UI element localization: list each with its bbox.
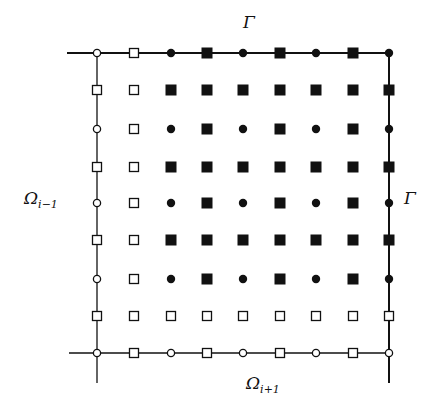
- filled-square-icon: [202, 85, 213, 96]
- open-circle-icon: [93, 199, 100, 206]
- filled-square-icon: [166, 162, 177, 173]
- open-circle-icon: [93, 349, 100, 356]
- open-square-icon: [276, 349, 285, 358]
- open-circle-icon: [239, 349, 246, 356]
- filled-circle-icon: [385, 275, 393, 283]
- filled-square-icon: [238, 85, 249, 96]
- filled-square-icon: [275, 124, 286, 135]
- filled-square-icon: [348, 48, 359, 59]
- filled-square-icon: [348, 85, 359, 96]
- gamma-top-text: Γ: [243, 12, 255, 32]
- open-square-icon: [203, 312, 212, 321]
- filled-square-icon: [202, 235, 213, 246]
- filled-circle-icon: [239, 275, 247, 283]
- filled-circle-icon: [167, 49, 175, 57]
- open-square-icon: [93, 86, 102, 95]
- open-square-icon: [312, 312, 321, 321]
- filled-square-icon: [348, 235, 359, 246]
- open-square-icon: [93, 163, 102, 172]
- open-square-icon: [130, 349, 139, 358]
- grid-diagram: [0, 0, 441, 411]
- filled-square-icon: [384, 162, 395, 173]
- open-circle-icon: [312, 349, 319, 356]
- omega-bottom-label: Ωi+1: [246, 375, 280, 395]
- open-square-icon: [276, 312, 285, 321]
- open-circle-icon: [385, 349, 392, 356]
- filled-circle-icon: [239, 199, 247, 207]
- filled-square-icon: [348, 198, 359, 209]
- filled-circle-icon: [312, 49, 320, 57]
- open-circle-icon: [93, 49, 100, 56]
- gamma-right-text: Γ: [404, 188, 416, 208]
- filled-square-icon: [166, 85, 177, 96]
- omega-left-subscript: i−1: [38, 198, 58, 211]
- filled-square-icon: [275, 48, 286, 59]
- filled-square-icon: [238, 235, 249, 246]
- filled-square-icon: [348, 162, 359, 173]
- open-circle-icon: [167, 349, 174, 356]
- filled-circle-icon: [239, 125, 247, 133]
- open-circle-icon: [93, 275, 100, 282]
- filled-square-icon: [202, 124, 213, 135]
- open-square-icon: [93, 236, 102, 245]
- open-square-icon: [130, 125, 139, 134]
- open-circle-icon: [93, 125, 100, 132]
- filled-circle-icon: [312, 199, 320, 207]
- filled-square-icon: [311, 235, 322, 246]
- filled-circle-icon: [312, 275, 320, 283]
- filled-square-icon: [384, 85, 395, 96]
- open-square-icon: [130, 163, 139, 172]
- open-square-icon: [130, 312, 139, 321]
- gamma-top-label: Γ: [243, 14, 255, 31]
- open-square-icon: [349, 349, 358, 358]
- open-square-icon: [93, 312, 102, 321]
- open-square-icon: [130, 275, 139, 284]
- filled-circle-icon: [385, 199, 393, 207]
- omega-left-label: Ωi−1: [24, 190, 58, 210]
- omega-bottom-symbol: Ω: [246, 373, 260, 393]
- filled-square-icon: [202, 162, 213, 173]
- open-square-icon: [349, 312, 358, 321]
- open-square-icon: [167, 312, 176, 321]
- filled-square-icon: [348, 124, 359, 135]
- open-square-icon: [130, 236, 139, 245]
- gamma-right-label: Γ: [404, 190, 416, 207]
- filled-circle-icon: [385, 49, 393, 57]
- filled-circle-icon: [312, 125, 320, 133]
- filled-circle-icon: [167, 125, 175, 133]
- open-square-icon: [239, 312, 248, 321]
- filled-square-icon: [238, 162, 249, 173]
- open-square-icon: [203, 349, 212, 358]
- open-square-icon: [130, 49, 139, 58]
- filled-square-icon: [348, 274, 359, 285]
- filled-square-icon: [384, 235, 395, 246]
- boundary-lines: [67, 53, 389, 383]
- filled-circle-icon: [239, 49, 247, 57]
- filled-square-icon: [202, 198, 213, 209]
- filled-circle-icon: [167, 199, 175, 207]
- filled-square-icon: [166, 235, 177, 246]
- filled-square-icon: [275, 235, 286, 246]
- filled-circle-icon: [167, 275, 175, 283]
- filled-square-icon: [202, 48, 213, 59]
- open-square-icon: [385, 312, 394, 321]
- open-square-icon: [130, 86, 139, 95]
- filled-square-icon: [311, 85, 322, 96]
- omega-bottom-subscript: i+1: [260, 383, 280, 396]
- open-square-icon: [130, 199, 139, 208]
- filled-square-icon: [275, 274, 286, 285]
- filled-square-icon: [275, 198, 286, 209]
- omega-left-symbol: Ω: [24, 188, 38, 208]
- grid-nodes: [93, 48, 395, 358]
- filled-square-icon: [202, 274, 213, 285]
- filled-square-icon: [311, 162, 322, 173]
- filled-circle-icon: [385, 125, 393, 133]
- filled-square-icon: [275, 85, 286, 96]
- filled-square-icon: [275, 162, 286, 173]
